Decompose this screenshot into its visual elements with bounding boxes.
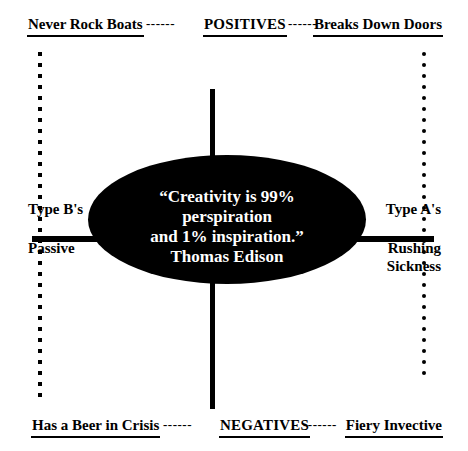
dot	[38, 305, 42, 309]
dot	[422, 184, 426, 188]
left-upper-pole-label: Type B's	[28, 200, 83, 218]
dot	[38, 184, 42, 188]
dot	[422, 294, 426, 298]
dot	[38, 272, 42, 276]
dot	[38, 393, 42, 397]
dot	[38, 173, 42, 177]
quadrant-diagram: Never Rock Boats ------ POSITIVES ------…	[0, 0, 468, 451]
top-left-quadrant-label: Never Rock Boats	[27, 14, 144, 37]
dot	[422, 371, 426, 375]
top-right-quadrant-label: Breaks Down Doors	[313, 14, 443, 37]
dot	[422, 151, 426, 155]
dot	[422, 327, 426, 331]
dot	[38, 360, 42, 364]
dot	[38, 349, 42, 353]
dot	[38, 118, 42, 122]
dot	[38, 283, 42, 287]
dot	[422, 283, 426, 287]
right-dotted-border	[422, 52, 428, 408]
left-dotted-border	[38, 52, 44, 408]
dot	[38, 96, 42, 100]
dot	[422, 52, 426, 56]
negatives-axis-label: NEGATIVES	[219, 415, 310, 438]
dot	[38, 294, 42, 298]
dot	[422, 305, 426, 309]
top-axis-row: Never Rock Boats ------ POSITIVES ------…	[0, 14, 468, 36]
dot	[38, 151, 42, 155]
dot	[422, 349, 426, 353]
dot	[38, 195, 42, 199]
dot	[422, 195, 426, 199]
dot	[422, 107, 426, 111]
dot	[422, 129, 426, 133]
dot	[422, 85, 426, 89]
dot	[38, 316, 42, 320]
dot	[422, 63, 426, 67]
dot	[38, 261, 42, 265]
dot	[422, 360, 426, 364]
dot	[422, 140, 426, 144]
right-upper-pole-label: Type A's	[386, 200, 441, 218]
dot	[38, 107, 42, 111]
right-lower-pole-label: Rushing Sickness	[387, 239, 441, 275]
dot	[422, 173, 426, 177]
dot	[38, 338, 42, 342]
dot	[38, 85, 42, 89]
dot	[38, 382, 42, 386]
dot	[422, 96, 426, 100]
top-left-dash-separator: ------	[146, 14, 175, 34]
dot	[422, 338, 426, 342]
dot	[422, 118, 426, 122]
bottom-right-dash-separator: -------	[303, 415, 337, 435]
dot	[38, 74, 42, 78]
dot	[38, 129, 42, 133]
dot	[38, 63, 42, 67]
bottom-left-quadrant-label: Has a Beer in Crisis	[31, 415, 160, 438]
dot	[38, 140, 42, 144]
bottom-left-dash-separator: ------	[163, 415, 192, 435]
dot	[38, 228, 42, 232]
dot	[38, 371, 42, 375]
dot	[422, 74, 426, 78]
dot	[422, 162, 426, 166]
bottom-axis-row: Has a Beer in Crisis ------ NEGATIVES --…	[0, 415, 468, 437]
center-quote-ellipse: “Creativity is 99% perspiration and 1% i…	[88, 155, 366, 284]
bottom-right-quadrant-label: Fiery Invective	[345, 415, 443, 438]
dot	[422, 316, 426, 320]
dot	[422, 228, 426, 232]
positives-axis-label: POSITIVES	[203, 14, 287, 37]
dot	[38, 162, 42, 166]
left-lower-pole-label: Passive	[28, 239, 75, 257]
vertical-axis-lower	[210, 270, 215, 409]
dot	[38, 327, 42, 331]
edison-quote-text: “Creativity is 99% perspiration and 1% i…	[150, 173, 304, 267]
dot	[38, 52, 42, 56]
